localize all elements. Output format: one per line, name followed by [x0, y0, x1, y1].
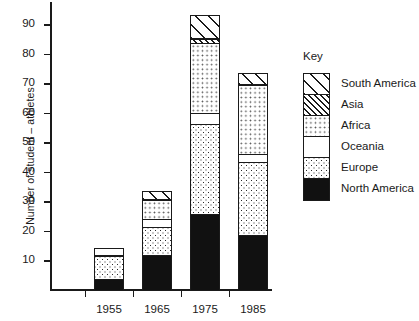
bar-segment-africa	[238, 85, 268, 156]
legend-label-north-america: North America	[341, 178, 416, 199]
bar-segment-europe	[142, 227, 172, 257]
y-tick-20: 20	[44, 231, 50, 232]
y-tick-label-70: 70	[22, 77, 35, 89]
legend-swatch-europe	[304, 158, 329, 179]
y-tick-label-10: 10	[22, 254, 35, 266]
legend-swatch-africa	[304, 116, 329, 137]
y-tick-label-60: 60	[22, 107, 35, 119]
bar-1955[interactable]	[94, 248, 124, 290]
x-tick-1965	[133, 291, 134, 297]
y-tick-70: 70	[44, 83, 50, 84]
legend-label-oceania: Oceania	[341, 136, 416, 157]
bar-1975[interactable]	[190, 15, 220, 289]
legend-swatch-asia	[304, 95, 329, 116]
y-tick-label-40: 40	[22, 166, 35, 178]
bar-segment-europe	[94, 256, 124, 280]
y-axis-title: Number of student – athletes	[24, 66, 36, 246]
legend: Key South America Asia Africa Oceania Eu…	[303, 50, 416, 201]
x-tick-label-1965: 1965	[144, 303, 170, 315]
bar-1965[interactable]	[142, 191, 172, 289]
bar-segment-africa	[142, 200, 172, 221]
y-tick-80: 80	[44, 54, 50, 55]
y-tick-90: 90	[44, 24, 50, 25]
legend-swatches	[303, 73, 330, 201]
bar-1985[interactable]	[238, 73, 268, 289]
y-tick-40: 40	[44, 172, 50, 173]
legend-swatch-oceania	[304, 137, 329, 158]
bar-segment-north-america	[142, 255, 172, 290]
x-tick-label-1955: 1955	[96, 303, 122, 315]
legend-labels: South America Asia Africa Oceania Europe…	[341, 73, 416, 201]
bar-segment-south-america	[238, 73, 268, 85]
plot-area: 90 80 70 60 50 40 30 20 10 1955	[50, 2, 272, 291]
x-tick-label-1975: 1975	[192, 303, 218, 315]
x-tick-1975	[181, 291, 182, 297]
y-tick-label-80: 80	[22, 48, 35, 60]
bar-segment-north-america	[94, 279, 124, 291]
bar-segment-africa	[190, 43, 220, 114]
x-tick-label-1985: 1985	[240, 303, 266, 315]
bar-segment-europe	[238, 162, 268, 236]
bar-segment-south-america	[142, 191, 172, 200]
y-tick-label-90: 90	[22, 18, 35, 30]
y-tick-label-50: 50	[22, 136, 35, 148]
legend-swatch-south-america	[304, 74, 329, 95]
y-tick-label-20: 20	[22, 225, 35, 237]
y-axis-line	[50, 2, 52, 291]
x-tick-1955	[85, 291, 86, 297]
y-tick-50: 50	[44, 142, 50, 143]
y-tick-label-30: 30	[22, 195, 35, 207]
y-tick-60: 60	[44, 113, 50, 114]
bar-segment-europe	[190, 124, 220, 215]
bar-segment-oceania	[94, 248, 124, 257]
legend-swatch-north-america	[304, 179, 329, 200]
y-tick-30: 30	[44, 201, 50, 202]
x-tick-1985	[229, 291, 230, 297]
bar-segment-north-america	[190, 214, 220, 291]
legend-body: South America Asia Africa Oceania Europe…	[303, 73, 416, 201]
bar-segment-south-america	[190, 15, 220, 39]
legend-label-europe: Europe	[341, 157, 416, 178]
chart-root: Number of student – athletes 90 80 70 60…	[0, 0, 419, 321]
legend-label-asia: Asia	[341, 94, 416, 115]
bar-segment-north-america	[238, 235, 268, 291]
y-tick-10: 10	[44, 260, 50, 261]
legend-title: Key	[303, 50, 416, 62]
legend-label-africa: Africa	[341, 115, 416, 136]
legend-label-south-america: South America	[341, 73, 416, 94]
